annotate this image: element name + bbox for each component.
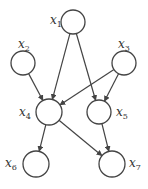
edge-x1-x4 xyxy=(52,34,70,100)
node-label-x4: x4 xyxy=(19,106,31,121)
node-x4 xyxy=(36,99,62,125)
node-label-x5: x5 xyxy=(116,106,128,121)
node-x5 xyxy=(87,100,111,124)
graph-canvas xyxy=(0,0,148,189)
edge-x1-x5 xyxy=(76,34,95,101)
node-x2 xyxy=(11,51,35,75)
node-x6 xyxy=(23,151,49,177)
node-label-x2: x2 xyxy=(18,38,30,53)
nodes xyxy=(11,10,136,177)
edge-x5-x7 xyxy=(102,124,109,152)
node-label-x1: x1 xyxy=(50,14,62,29)
edge-x4-x7 xyxy=(59,120,102,155)
bayesian-network-diagram: x1x2x3x4x5x6x7 xyxy=(0,0,148,189)
node-x7 xyxy=(99,151,125,177)
edges xyxy=(29,34,119,156)
node-label-x7: x7 xyxy=(129,157,141,172)
node-label-x6: x6 xyxy=(5,157,17,172)
edge-x2-x4 xyxy=(29,74,43,101)
edge-x3-x5 xyxy=(104,74,118,102)
node-x1 xyxy=(61,10,85,34)
node-x3 xyxy=(112,51,136,75)
edge-x4-x6 xyxy=(39,125,46,152)
node-label-x3: x3 xyxy=(118,38,130,53)
